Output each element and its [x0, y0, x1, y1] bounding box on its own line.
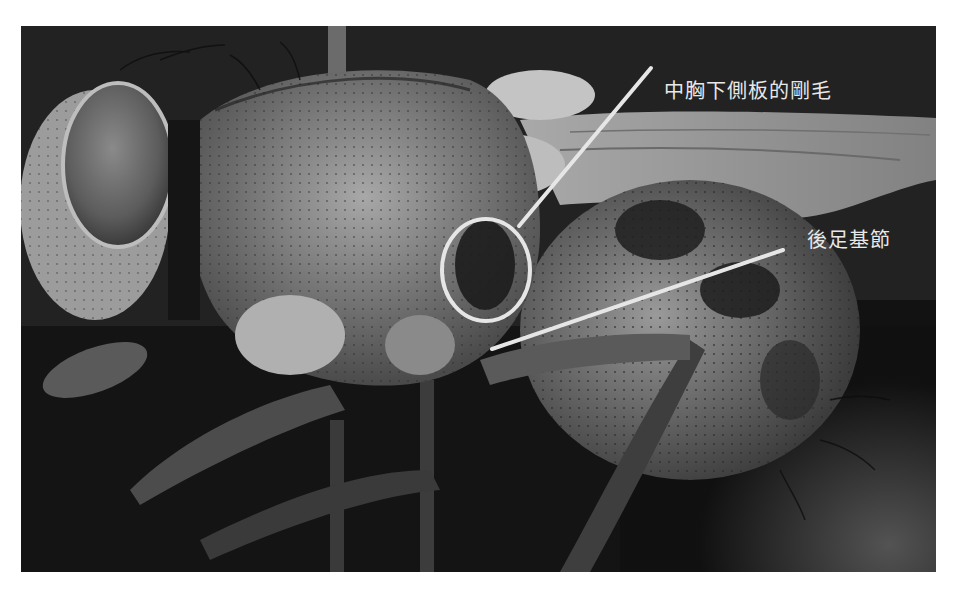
fly-illustration [21, 26, 936, 572]
compound-eye [63, 83, 173, 247]
fly-photograph [21, 26, 936, 572]
label-hind-coxa: 後足基節 [807, 224, 891, 253]
front-coxa [235, 295, 345, 375]
label-mesopleural-bristles: 中胸下側板的剛毛 [664, 75, 832, 104]
stem-top [328, 26, 346, 76]
